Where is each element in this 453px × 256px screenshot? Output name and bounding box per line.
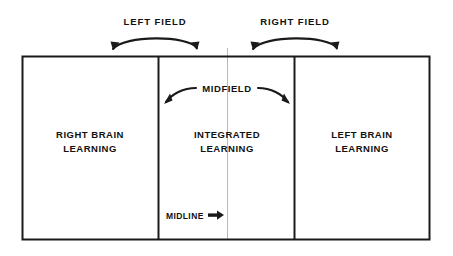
left-field-arrowhead-right	[191, 42, 200, 51]
right-field-arrowhead-right	[331, 42, 340, 51]
midfield-arrowhead-left	[164, 94, 173, 105]
left-brain-panel-label-line1: LEFT BRAIN	[331, 128, 392, 142]
integrated-panel-label: INTEGRATED LEARNING	[194, 128, 260, 155]
right-field-arc	[251, 38, 340, 50]
midline-pointer-icon	[208, 211, 224, 220]
right-field-label: RIGHT FIELD	[260, 15, 330, 28]
right-brain-panel-label: RIGHT BRAIN LEARNING	[56, 128, 124, 155]
left-field-label: LEFT FIELD	[124, 15, 187, 28]
left-field-arc	[111, 38, 200, 50]
left-brain-panel-label: LEFT BRAIN LEARNING	[331, 128, 392, 155]
midline-label: MIDLINE	[166, 210, 204, 223]
midfield-label: MIDFIELD	[202, 82, 251, 95]
left-brain-panel-label-line2: LEARNING	[331, 142, 392, 156]
diagram-canvas: LEFT FIELD RIGHT FIELD MIDFIELD RIGHT BR…	[0, 0, 453, 256]
integrated-panel-label-line1: INTEGRATED	[194, 128, 260, 142]
right-brain-panel-label-line2: LEARNING	[56, 142, 124, 156]
integrated-panel-label-line2: LEARNING	[194, 142, 260, 156]
midfield-arrowhead-right	[282, 94, 291, 105]
right-brain-panel-label-line1: RIGHT BRAIN	[56, 128, 124, 142]
